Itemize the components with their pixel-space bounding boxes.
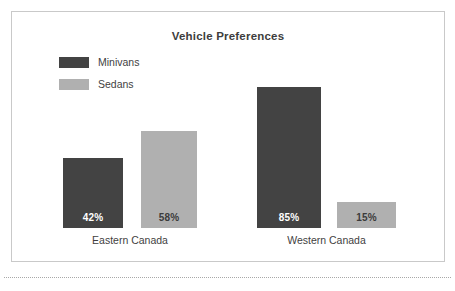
bar-value-western-minivans: 85% bbox=[257, 212, 321, 223]
plot-area: 42% 58% 85% 15% Eastern Canada Western C… bbox=[12, 12, 444, 261]
bar-western-sedans[interactable]: 15% bbox=[337, 202, 396, 228]
bar-western-minivans[interactable]: 85% bbox=[257, 87, 321, 228]
group-label-western-canada: Western Canada bbox=[249, 234, 404, 246]
group-label-eastern-canada: Eastern Canada bbox=[53, 234, 207, 246]
bar-value-western-sedans: 15% bbox=[337, 212, 396, 223]
chart-frame: Vehicle Preferences Minivans Sedans 42% … bbox=[11, 11, 445, 262]
bar-value-eastern-sedans: 58% bbox=[141, 212, 197, 223]
bar-value-eastern-minivans: 42% bbox=[63, 212, 123, 223]
bar-eastern-sedans[interactable]: 58% bbox=[141, 131, 197, 228]
bar-eastern-minivans[interactable]: 42% bbox=[63, 158, 123, 228]
footer-divider bbox=[4, 277, 451, 278]
